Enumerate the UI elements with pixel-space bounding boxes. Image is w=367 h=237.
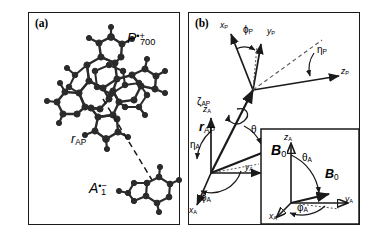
y-axis-p-label: yP xyxy=(267,27,275,37)
x-axis-p-label: xP xyxy=(220,21,228,31)
rap-vector-group xyxy=(211,90,253,173)
acceptor-label-subscript: 1 xyxy=(101,187,106,197)
z-axis-p-label: zP xyxy=(341,67,349,77)
acceptor-label-base: A xyxy=(89,180,98,196)
phi-p-label: ϕP xyxy=(243,25,253,36)
theta-label: θ xyxy=(251,125,257,135)
y-axis-a-inset-label: yA xyxy=(345,195,353,205)
rap-vector-label: rAP xyxy=(199,121,215,135)
eta-a-label: ηA xyxy=(190,140,200,151)
figure-canvas: (a) xyxy=(0,0,367,237)
eta-p-reference-dashed xyxy=(253,40,322,90)
y-axis-p-arrow xyxy=(253,44,261,90)
phi-p-arc xyxy=(236,47,255,50)
x-axis-p-arrow xyxy=(231,34,253,90)
panel-b-graphics xyxy=(189,13,361,226)
panel-b: (b) xyxy=(188,12,360,225)
x-axis-a-label: xA xyxy=(189,206,197,216)
z-axis-p-arrow xyxy=(253,76,339,90)
phi-a-label: ϕA xyxy=(201,193,211,204)
rap-subscript: AP xyxy=(75,138,86,147)
rap-distance-label: rAP xyxy=(71,133,86,147)
donor-label-p700: P•+700 xyxy=(127,31,155,47)
y-axis-a-label: yA xyxy=(245,163,253,173)
rap-vector-arrow xyxy=(211,90,253,173)
eta-p-arc xyxy=(309,53,314,76)
donor-label-subscript: 700 xyxy=(140,37,155,47)
p-frame-axes xyxy=(231,34,339,90)
donor-label-base: P xyxy=(127,30,136,46)
x-axis-a-inset-label: xA xyxy=(269,212,277,222)
a1-quinone-molecule xyxy=(116,164,181,214)
phi-a-inset-label: φA xyxy=(297,203,308,214)
acceptor-label-a1: A•−1 xyxy=(89,181,106,197)
b0-field-label: B0 xyxy=(271,143,286,159)
b0-field-inset-label: B0 xyxy=(325,168,339,182)
panel-a: (a) xyxy=(28,12,180,225)
z-axis-a-inset-label: zA xyxy=(284,133,292,143)
z-axis-a-label: zA xyxy=(203,105,211,115)
eta-p-label: ηP xyxy=(317,45,327,56)
theta-a-inset-label: θA xyxy=(302,153,312,164)
